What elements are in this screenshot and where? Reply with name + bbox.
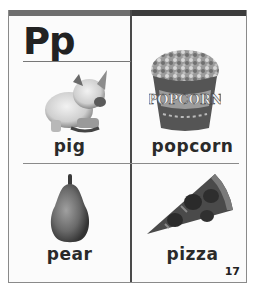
top-bar-right xyxy=(131,10,246,16)
word-label-pig: pig xyxy=(9,136,130,156)
page-number: 17 xyxy=(225,265,240,278)
svg-text:POPCORN: POPCORN xyxy=(149,92,221,107)
popcorn-icon: POPCORN xyxy=(149,42,221,134)
word-label-pizza: pizza xyxy=(132,244,253,264)
word-label-pear: pear xyxy=(9,244,130,264)
word-label-popcorn: popcorn xyxy=(132,136,253,156)
letter-heading: Pp xyxy=(23,20,75,64)
top-bar-left xyxy=(9,10,131,16)
pig-icon xyxy=(37,62,117,136)
pear-icon xyxy=(47,172,93,244)
pizza-icon xyxy=(145,172,235,236)
flashcard: Pp POPC xyxy=(8,10,247,283)
horizontal-divider xyxy=(23,163,239,164)
